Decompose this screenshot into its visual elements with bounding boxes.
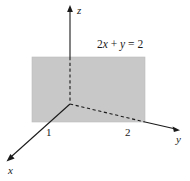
diagram-canvas xyxy=(0,0,190,181)
z-axis-arrow-icon xyxy=(67,5,73,12)
figure-3d-plane-diagram: z y x 1 2 2x + y = 2 xyxy=(0,0,190,181)
shaded-plane-region xyxy=(32,57,145,122)
x-intercept-tick-label: 1 xyxy=(46,127,52,138)
plane-equation-label: 2x + y = 2 xyxy=(97,39,143,51)
y-axis-label: y xyxy=(176,134,181,145)
equation-right-side: 2 xyxy=(137,38,143,50)
y-axis-solid-segment xyxy=(145,122,175,129)
y-intercept-tick-label: 2 xyxy=(125,127,131,138)
y-axis-arrow-icon xyxy=(173,126,180,132)
z-axis-label: z xyxy=(77,5,81,16)
x-axis-label: x xyxy=(8,165,13,176)
